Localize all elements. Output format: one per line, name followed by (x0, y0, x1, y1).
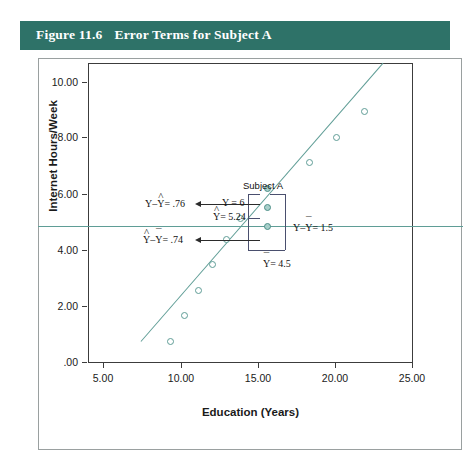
mean-line (38, 226, 463, 227)
data-point (264, 204, 271, 211)
y-hat-glyph: Y^ (213, 211, 220, 222)
residual-value: = .76 (164, 198, 185, 209)
data-point (209, 261, 216, 268)
regression-effect-label: Y^–Y¯= .74 (143, 234, 183, 245)
y-tick-mark (82, 362, 87, 363)
residual-arrow-head (195, 201, 201, 207)
y-tick-mark (82, 82, 87, 83)
regression-effect-arrow-head (195, 237, 201, 243)
figure-container: Figure 11.6Error Terms for Subject A 10.… (0, 0, 470, 460)
data-point (361, 108, 368, 115)
bracket-left-upper (248, 194, 249, 218)
x-tick-label: 25.00 (382, 372, 442, 384)
x-tick-mark (258, 363, 259, 368)
mean-y-label: Y¯= 4.5 (263, 258, 291, 269)
figure-title: Error Terms for Subject A (114, 27, 271, 42)
figure-number: Figure 11.6 (36, 27, 102, 42)
y-tick-mark (82, 306, 87, 307)
bracket-right-edge (285, 194, 286, 250)
x-tick-label: 15.00 (228, 372, 288, 384)
residual-prefix: Y– (145, 198, 157, 209)
predicted-y-label: Y^= 5.24 (213, 211, 246, 222)
regression-effect-value: = .74 (162, 234, 183, 245)
data-point (306, 159, 313, 166)
y-tick-mark (82, 194, 87, 195)
total-deviation-value: = 1.5 (312, 222, 333, 233)
total-deviation-label: Y–Y¯= 1.5 (293, 222, 333, 233)
x-tick-mark (335, 363, 336, 368)
y-tick-label: 2.00 (32, 300, 78, 312)
bracket-mid-left (248, 218, 260, 219)
x-tick-mark (103, 363, 104, 368)
plot-area (88, 63, 413, 363)
data-point (181, 312, 188, 319)
y-bar-glyph: Y¯ (155, 234, 162, 245)
x-tick-mark (412, 363, 413, 368)
subject-a-label: Subject A (243, 180, 283, 191)
regression-effect-arrow-line (200, 240, 260, 241)
observed-y-label: Y = 6 (222, 197, 245, 208)
figure-caption: Figure 11.6Error Terms for Subject A (36, 27, 272, 43)
total-deviation-prefix: Y– (293, 222, 305, 233)
x-tick-mark (181, 363, 182, 368)
y-hat-glyph: Y^ (157, 198, 164, 209)
x-tick-label: 5.00 (73, 372, 133, 384)
x-tick-label: 20.00 (305, 372, 365, 384)
y-tick-label: .00 (32, 356, 78, 368)
y-axis-title: Internet Hours/Week (47, 61, 59, 251)
x-tick-label: 10.00 (151, 372, 211, 384)
y-bar-glyph: Y¯ (305, 222, 312, 233)
data-point (195, 287, 202, 294)
bracket-left-lower (248, 218, 249, 250)
predicted-y-value: = 5.24 (220, 211, 246, 222)
data-point (333, 134, 340, 141)
y-hat-glyph: Y^ (143, 234, 150, 245)
mean-y-value: = 4.5 (270, 258, 291, 269)
bracket-top-right (270, 194, 285, 195)
y-tick-mark (82, 250, 87, 251)
bracket-top-left (248, 194, 260, 195)
x-axis-title: Education (Years) (88, 406, 413, 418)
y-tick-mark (82, 137, 87, 138)
y-bar-glyph: Y¯ (263, 258, 270, 269)
data-point (167, 338, 174, 345)
residual-label: Y–Y^= .76 (145, 198, 185, 209)
data-point (264, 223, 271, 230)
